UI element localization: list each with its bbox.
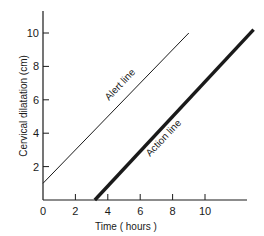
partogram-chart: 0246810246810 Alert lineAction lineCervi… (0, 0, 264, 236)
x-tick-label: 4 (105, 205, 111, 217)
series-group (43, 30, 254, 200)
y-tick-label: 4 (33, 127, 39, 139)
y-tick-label: 10 (27, 27, 39, 39)
x-axis-title: Time ( hours ) (95, 221, 157, 232)
action-line (95, 30, 254, 200)
y-tick-label: 2 (33, 161, 39, 173)
x-tick-label: 2 (72, 205, 78, 217)
x-tick-label: 10 (199, 205, 211, 217)
action-line-label: Action line (143, 117, 183, 158)
y-tick-label: 6 (33, 94, 39, 106)
alert-line-label: Alert line (102, 66, 137, 102)
y-axis-title: Cervical dilatation (cm) (18, 55, 29, 157)
x-tick-label: 8 (170, 205, 176, 217)
alert-line (43, 33, 189, 183)
axes: 0246810246810 (27, 11, 247, 217)
y-tick-label: 8 (33, 60, 39, 72)
x-tick-label: 0 (40, 205, 46, 217)
x-tick-label: 6 (137, 205, 143, 217)
